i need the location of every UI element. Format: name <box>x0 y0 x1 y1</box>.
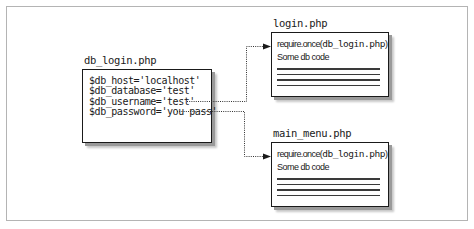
login-box: require.once(db_login.php) Some db code <box>271 32 389 97</box>
login-file-label: login.php <box>273 17 327 29</box>
placeholder-line <box>277 68 380 70</box>
main-menu-require-statement: require.once(db_login.php) <box>277 147 388 161</box>
placeholder-line <box>277 184 380 186</box>
require-prefix: require.once( <box>277 39 322 49</box>
placeholder-line <box>277 178 380 180</box>
placeholder-line <box>277 189 380 191</box>
placeholder-line <box>277 74 380 76</box>
main-menu-placeholder-lines <box>277 178 380 196</box>
placeholder-line <box>277 195 380 197</box>
login-require-statement: require.once(db_login.php) <box>277 37 388 51</box>
main-menu-box: require.once(db_login.php) Some db code <box>271 142 389 207</box>
login-placeholder-lines <box>277 68 380 86</box>
require-file: db_login.php <box>322 38 385 49</box>
placeholder-line <box>277 79 380 81</box>
db-login-box: $db_host='localhost' $db_database='test'… <box>82 69 212 143</box>
placeholder-line <box>277 85 380 87</box>
require-file: db_login.php <box>322 148 385 159</box>
main-menu-body-text: Some db code <box>277 161 388 173</box>
require-suffix: ) <box>385 149 387 159</box>
main-menu-file-label: main_menu.php <box>273 127 351 139</box>
db-login-file-label: db_login.php <box>84 54 156 66</box>
code-line-db-password: $db_password='you pass' <box>89 107 211 117</box>
diagram-frame <box>6 6 468 221</box>
login-body-text: Some db code <box>277 51 388 63</box>
require-prefix: require.once( <box>277 149 322 159</box>
require-suffix: ) <box>385 39 387 49</box>
